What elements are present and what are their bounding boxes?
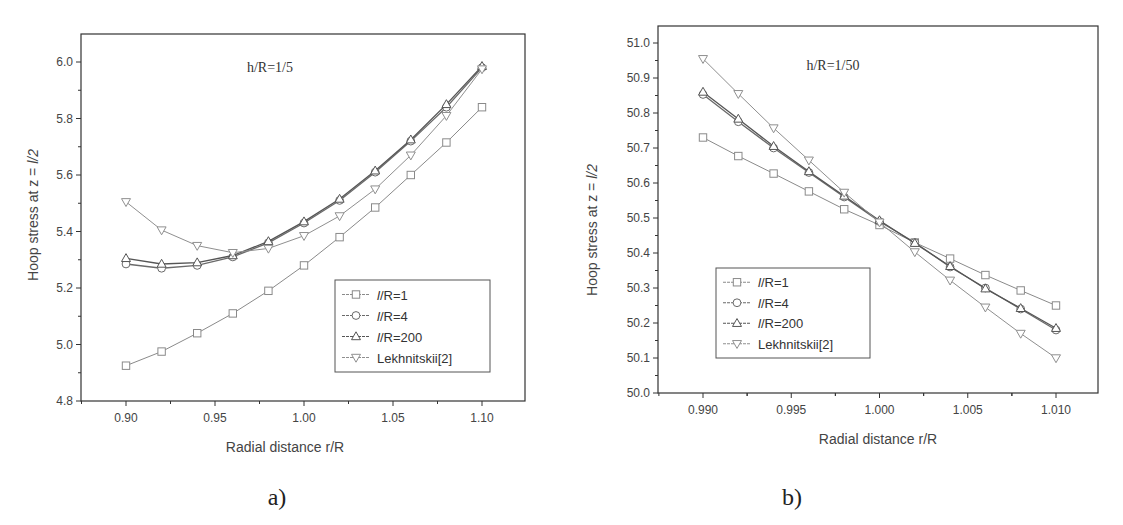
chart-b-hoop-stress-h-r-1-50: 50.050.150.250.350.450.550.650.750.850.9… bbox=[560, 0, 1123, 525]
x-axis: 0.9900.9951.0001.0051.010 bbox=[659, 393, 1071, 417]
square-marker-icon bbox=[805, 188, 812, 195]
x-tick-label: 0.90 bbox=[114, 411, 138, 425]
legend: l/R=1l/R=4l/R=200Lekhnitskii[2] bbox=[335, 280, 490, 372]
circle-legend-icon bbox=[352, 312, 360, 320]
y-tick-label: 50.2 bbox=[627, 316, 651, 330]
chart-a-hoop-stress-h-r-1-5: 4.85.05.25.45.65.86.00.900.951.001.051.1… bbox=[0, 0, 560, 525]
legend-label: l/R=4 bbox=[758, 296, 789, 311]
legend-label: l/R=200 bbox=[377, 330, 422, 345]
triangle-up-marker-icon bbox=[734, 114, 743, 122]
legend-label: l/R=1 bbox=[758, 275, 789, 290]
triangle-down-marker-icon bbox=[371, 186, 380, 194]
y-axis: 50.050.150.250.350.450.550.650.750.850.9… bbox=[627, 36, 658, 400]
legend-label: l/R=200 bbox=[758, 316, 803, 331]
square-marker-icon bbox=[265, 287, 272, 294]
triangle-down-marker-icon bbox=[981, 304, 990, 312]
x-tick-label: 1.10 bbox=[470, 411, 494, 425]
y-tick-label: 5.6 bbox=[56, 168, 73, 182]
series-lekhnitskii-2- bbox=[122, 66, 487, 258]
y-axis: 4.85.05.25.45.65.86.0 bbox=[56, 55, 81, 408]
square-marker-icon bbox=[158, 348, 165, 355]
legend-label: Lekhnitskii[2] bbox=[758, 337, 833, 352]
square-marker-icon bbox=[841, 206, 848, 213]
panel-label: a) bbox=[268, 484, 287, 510]
x-tick-label: 0.990 bbox=[688, 403, 718, 417]
y-tick-label: 4.8 bbox=[56, 394, 73, 408]
square-marker-icon bbox=[1052, 302, 1059, 309]
triangle-up-marker-icon bbox=[699, 87, 708, 95]
x-tick-label: 1.05 bbox=[381, 411, 405, 425]
y-tick-label: 50.1 bbox=[627, 351, 651, 365]
x-axis-title: Radial distance r/R bbox=[226, 439, 344, 455]
square-marker-icon bbox=[770, 170, 777, 177]
square-marker-icon bbox=[982, 271, 989, 278]
square-marker-icon bbox=[1017, 287, 1024, 294]
y-tick-label: 5.8 bbox=[56, 112, 73, 126]
panel-label: b) bbox=[782, 484, 802, 510]
y-tick-label: 5.4 bbox=[56, 225, 73, 239]
square-marker-icon bbox=[300, 262, 307, 269]
triangle-down-marker-icon bbox=[122, 199, 131, 207]
square-legend-icon bbox=[352, 291, 359, 298]
square-marker-icon bbox=[699, 134, 706, 141]
square-marker-icon bbox=[407, 171, 414, 178]
chart-svg: 4.85.05.25.45.65.86.00.900.951.001.051.1… bbox=[0, 0, 560, 525]
square-marker-icon bbox=[122, 362, 129, 369]
x-axis: 0.900.951.001.051.10 bbox=[82, 401, 495, 425]
x-tick-label: 0.995 bbox=[776, 403, 806, 417]
x-tick-label: 1.00 bbox=[292, 411, 316, 425]
y-axis-title: Hoop stress at z = l/2 bbox=[584, 164, 600, 296]
x-tick-label: 0.95 bbox=[203, 411, 227, 425]
x-tick-label: 1.010 bbox=[1041, 403, 1071, 417]
y-axis-title: Hoop stress at z = l/2 bbox=[25, 149, 41, 281]
circle-legend-icon bbox=[733, 299, 741, 307]
y-tick-label: 5.0 bbox=[56, 338, 73, 352]
y-tick-label: 50.0 bbox=[627, 386, 651, 400]
y-tick-label: 50.7 bbox=[627, 141, 651, 155]
square-marker-icon bbox=[336, 233, 343, 240]
y-tick-label: 50.3 bbox=[627, 281, 651, 295]
y-tick-label: 6.0 bbox=[56, 55, 73, 69]
y-tick-label: 50.9 bbox=[627, 71, 651, 85]
triangle-down-marker-icon bbox=[1016, 330, 1025, 338]
x-tick-label: 1.005 bbox=[953, 403, 983, 417]
triangle-down-marker-icon bbox=[157, 227, 166, 235]
square-marker-icon bbox=[372, 204, 379, 211]
square-marker-icon bbox=[194, 330, 201, 337]
square-legend-icon bbox=[733, 279, 740, 286]
y-tick-label: 50.5 bbox=[627, 211, 651, 225]
square-marker-icon bbox=[229, 310, 236, 317]
triangle-down-marker-icon bbox=[335, 213, 344, 221]
y-tick-label: 51.0 bbox=[627, 36, 651, 50]
triangle-down-marker-icon bbox=[946, 277, 955, 285]
x-tick-label: 1.000 bbox=[864, 403, 894, 417]
square-marker-icon bbox=[478, 104, 485, 111]
square-marker-icon bbox=[735, 152, 742, 159]
legend: l/R=1l/R=4l/R=200Lekhnitskii[2] bbox=[716, 268, 870, 358]
legend-label: l/R=1 bbox=[377, 288, 408, 303]
triangle-up-marker-icon bbox=[122, 254, 131, 262]
legend-label: l/R=4 bbox=[377, 309, 408, 324]
triangle-down-marker-icon bbox=[910, 249, 919, 257]
legend-label: Lekhnitskii[2] bbox=[377, 351, 452, 366]
x-axis-title: Radial distance r/R bbox=[819, 431, 937, 447]
y-tick-label: 50.8 bbox=[627, 106, 651, 120]
triangle-down-marker-icon bbox=[1052, 355, 1061, 363]
chart-svg: 50.050.150.250.350.450.550.650.750.850.9… bbox=[560, 0, 1123, 525]
y-tick-label: 50.4 bbox=[627, 246, 651, 260]
y-tick-label: 50.6 bbox=[627, 176, 651, 190]
square-marker-icon bbox=[443, 139, 450, 146]
annotation-h-over-r: h/R=1/5 bbox=[247, 60, 293, 75]
annotation-h-over-r: h/R=1/50 bbox=[806, 58, 859, 73]
y-tick-label: 5.2 bbox=[56, 281, 73, 295]
